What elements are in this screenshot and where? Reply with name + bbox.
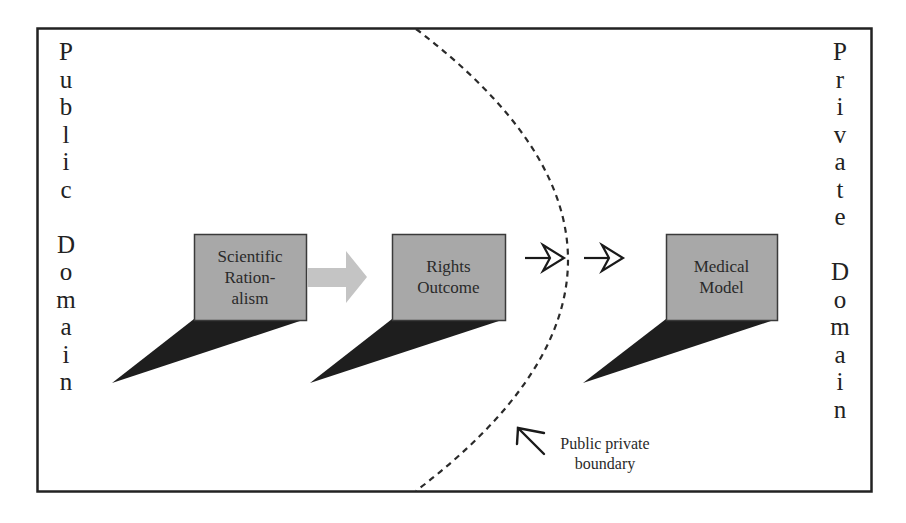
letter: r <box>828 66 852 94</box>
letter: o <box>54 258 78 286</box>
letter: m <box>828 313 852 341</box>
label-line: Ration- <box>194 267 306 288</box>
letter: n <box>54 368 78 396</box>
letter: v <box>828 121 852 149</box>
letter: D <box>828 258 852 286</box>
letter: i <box>828 93 852 121</box>
letter: a <box>828 341 852 369</box>
letter: u <box>54 66 78 94</box>
spacer <box>54 203 78 231</box>
open-arrow-icon <box>584 245 623 271</box>
letter: a <box>54 313 78 341</box>
boundary-caption: Public private boundary <box>540 434 670 474</box>
letter: a <box>828 148 852 176</box>
private-domain-label: P r i v a t e D o m a i n <box>828 38 852 423</box>
medical-model-label: Medical Model <box>666 256 777 298</box>
open-arrow-icon <box>525 245 564 271</box>
label-line: Model <box>666 277 777 298</box>
letter: m <box>54 286 78 314</box>
public-domain-label: P u b l i c D o m a i n <box>54 38 78 396</box>
label-line: Rights <box>392 256 505 277</box>
letter: l <box>54 121 78 149</box>
label-line: Medical <box>666 256 777 277</box>
spacer <box>828 231 852 259</box>
letter: b <box>54 93 78 121</box>
letter: t <box>828 176 852 204</box>
label-line: alism <box>194 288 306 309</box>
letter: P <box>828 38 852 66</box>
medical-model-shadow <box>583 319 777 383</box>
letter: i <box>54 148 78 176</box>
letter: i <box>828 368 852 396</box>
scientific-rationalism-shadow <box>112 319 306 383</box>
rights-outcome-label: Rights Outcome <box>392 256 505 298</box>
label-line: Outcome <box>392 277 505 298</box>
letter: e <box>828 203 852 231</box>
letter: o <box>828 286 852 314</box>
caption-line: boundary <box>540 454 670 474</box>
letter: D <box>54 231 78 259</box>
letter: c <box>54 176 78 204</box>
label-line: Scientific <box>194 246 306 267</box>
letter: P <box>54 38 78 66</box>
rights-outcome-shadow <box>310 319 505 383</box>
block-arrow-icon <box>307 251 367 303</box>
scientific-rationalism-label: Scientific Ration- alism <box>194 246 306 309</box>
letter: n <box>828 396 852 424</box>
caption-line: Public private <box>540 434 670 454</box>
letter: i <box>54 341 78 369</box>
